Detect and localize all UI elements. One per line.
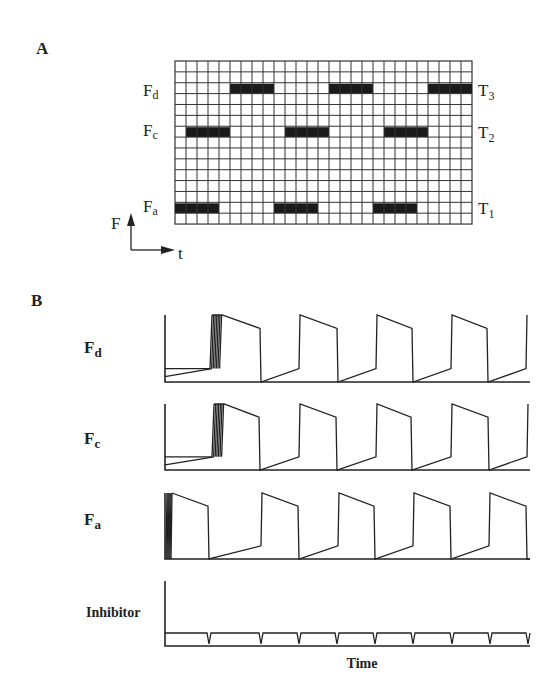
panel-a-label: A xyxy=(36,39,49,58)
axis-label-t: t xyxy=(178,244,183,263)
grid-label-fa: Fa xyxy=(143,197,158,218)
grid-label-fc: Fc xyxy=(143,121,158,142)
trace-label-fd: Fd xyxy=(84,338,102,360)
axis-label-f: F xyxy=(111,214,120,233)
trace-plots xyxy=(165,315,530,646)
trace-label-inhibitor: Inhibitor xyxy=(86,605,140,620)
trace-label-fa: Fa xyxy=(84,510,101,532)
trace-fd xyxy=(165,315,530,382)
trace-fa xyxy=(165,493,530,559)
grid-label-t3: T3 xyxy=(478,81,494,103)
x-axis-label-time: Time xyxy=(347,656,378,671)
figure: A Fd Fc Fa T3 T2 T1 F t B Fd Fc Fa Inhib… xyxy=(0,0,559,692)
grid-label-t2: T2 xyxy=(478,123,494,145)
firing-pattern-grid xyxy=(175,61,472,224)
panel-b-label: B xyxy=(31,291,42,310)
trace-label-fc: Fc xyxy=(84,429,100,451)
trace-fc xyxy=(165,404,530,470)
grid-label-fd: Fd xyxy=(143,81,158,102)
grid-label-t1: T1 xyxy=(478,199,494,221)
trace-inhibitor xyxy=(165,581,530,646)
axis-arrows-icon xyxy=(127,213,175,254)
